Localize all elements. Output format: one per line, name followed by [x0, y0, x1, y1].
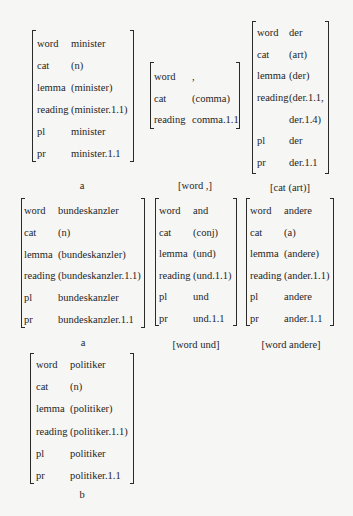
feature-value: (minister.1.1)	[71, 99, 128, 121]
matrix-row: cat(a)	[250, 222, 334, 244]
feature-name: word	[250, 200, 284, 222]
matrix-row: prminister.1.1	[37, 143, 134, 165]
feature-name: cat	[37, 55, 71, 77]
feature-value: der	[289, 22, 302, 44]
feature-name: pr	[24, 309, 58, 331]
feature-value: comma.1.1	[192, 109, 239, 131]
feature-name: lemma	[36, 398, 70, 420]
feature-matrix-und: wordand cat(conj) lemma(und) reading(und…	[155, 198, 237, 326]
feature-name: word	[37, 33, 71, 55]
matrix-row: wordandere	[250, 200, 334, 222]
feature-value: (n)	[58, 222, 70, 244]
feature-matrix-politiker: wordpolitiker cat(n) lemma(politiker) re…	[30, 353, 134, 484]
feature-value: (a)	[284, 222, 296, 244]
matrix-row: plder	[257, 130, 329, 152]
matrix-row: readingcomma.1.1	[154, 109, 240, 131]
feature-name: word	[257, 22, 289, 44]
matrix-row: cat(conj)	[159, 222, 237, 244]
feature-value: (politiker)	[70, 398, 113, 420]
matrix-row: plminister	[37, 121, 134, 143]
feature-value: andere	[284, 286, 312, 308]
feature-value: bundeskanzler	[58, 200, 119, 222]
matrix-row: prpolitiker.1.1	[36, 465, 134, 487]
feature-name: cat	[257, 44, 289, 66]
feature-value: (conj)	[193, 222, 218, 244]
feature-name: pl	[37, 121, 71, 143]
feature-name: reading	[159, 265, 193, 287]
feature-value: (andere)	[284, 243, 319, 265]
feature-name: pr	[36, 465, 70, 487]
feature-value: (n)	[71, 55, 83, 77]
feature-name: reading	[36, 421, 70, 443]
feature-name: pl	[257, 130, 289, 152]
feature-name: cat	[36, 376, 70, 398]
matrix-row: prander.1.1	[250, 308, 334, 330]
feature-matrix-andere: wordandere cat(a) lemma(andere) reading(…	[246, 198, 334, 326]
matrix-row: reading(und.1.1)	[159, 265, 237, 287]
matrix-row: plandere	[250, 286, 334, 308]
matrix-row: plund	[159, 286, 237, 308]
feature-value: (und)	[193, 243, 216, 265]
feature-value: (der)	[289, 65, 309, 87]
feature-name: cat	[159, 222, 193, 244]
matrix-caption: b	[79, 489, 84, 501]
matrix-row: cat(art)	[257, 44, 329, 66]
matrix-row: plbundeskanzler	[24, 287, 145, 309]
feature-matrix-minister: wordminister cat(n) lemma(minister) read…	[32, 30, 134, 162]
feature-name: word	[24, 200, 58, 222]
matrix-caption: a	[81, 337, 86, 349]
feature-value: der.1.4)	[289, 109, 321, 131]
feature-name: cat	[24, 222, 58, 244]
matrix-row: lemma(minister)	[37, 77, 134, 99]
matrix-caption: [word andere]	[261, 339, 320, 351]
feature-name: cat	[154, 88, 192, 110]
feature-name: pr	[257, 152, 289, 174]
feature-value: minister	[71, 33, 105, 55]
feature-name: lemma	[159, 243, 193, 265]
matrix-row: lemma(und)	[159, 243, 237, 265]
matrix-row: reading(minister.1.1)	[37, 99, 134, 121]
feature-matrix-comma: word, cat(comma) readingcomma.1.1	[150, 62, 240, 129]
matrix-row: wordpolitiker	[36, 354, 134, 376]
feature-value: politiker.1.1	[70, 465, 121, 487]
feature-value: (minister)	[71, 77, 112, 99]
feature-value: (bundeskanzler.1.1)	[58, 265, 141, 287]
feature-value: und	[193, 286, 209, 308]
feature-name: reading	[257, 87, 289, 109]
matrix-row: wordand	[159, 200, 237, 222]
matrix-row: reading(ander.1.1)	[250, 265, 334, 287]
feature-value: bundeskanzler	[58, 287, 119, 309]
matrix-row: cat(n)	[36, 376, 134, 398]
feature-value: der.1.1	[289, 152, 318, 174]
matrix-row: cat(n)	[37, 55, 134, 77]
matrix-row: cat(n)	[24, 222, 145, 244]
matrix-row: lemma(politiker)	[36, 398, 134, 420]
matrix-row: reading(bundeskanzler.1.1)	[24, 265, 145, 287]
feature-value: (der.1.1,	[289, 87, 324, 109]
feature-value: politiker	[70, 443, 106, 465]
feature-name: lemma	[257, 65, 289, 87]
matrix-row: cat(comma)	[154, 88, 240, 110]
feature-value: (ander.1.1)	[284, 265, 329, 287]
feature-name: reading	[37, 99, 71, 121]
matrix-row: prder.1.1	[257, 152, 329, 174]
feature-name: word	[36, 354, 70, 376]
feature-value: (art)	[289, 44, 307, 66]
matrix-caption: a	[80, 180, 85, 192]
matrix-row: prund.1.1	[159, 308, 237, 330]
feature-matrix-bundeskanzler: wordbundeskanzler cat(n) lemma(bundeskan…	[21, 198, 145, 328]
matrix-row: lemma(der)	[257, 65, 329, 87]
feature-name: word	[159, 200, 193, 222]
matrix-caption: [cat (art)]	[270, 182, 310, 194]
matrix-row: wordminister	[37, 33, 134, 55]
feature-value: der	[289, 130, 302, 152]
matrix-row: wordder	[257, 22, 329, 44]
feature-value: politiker	[70, 354, 106, 376]
feature-value: andere	[284, 200, 312, 222]
matrix-row: lemma(bundeskanzler)	[24, 244, 145, 266]
matrix-row-continuation: der.1.4)	[257, 109, 329, 131]
matrix-row: prbundeskanzler.1.1	[24, 309, 145, 331]
matrix-row: lemma(andere)	[250, 243, 334, 265]
matrix-caption: [word ,]	[178, 180, 212, 192]
feature-value: minister	[71, 121, 105, 143]
